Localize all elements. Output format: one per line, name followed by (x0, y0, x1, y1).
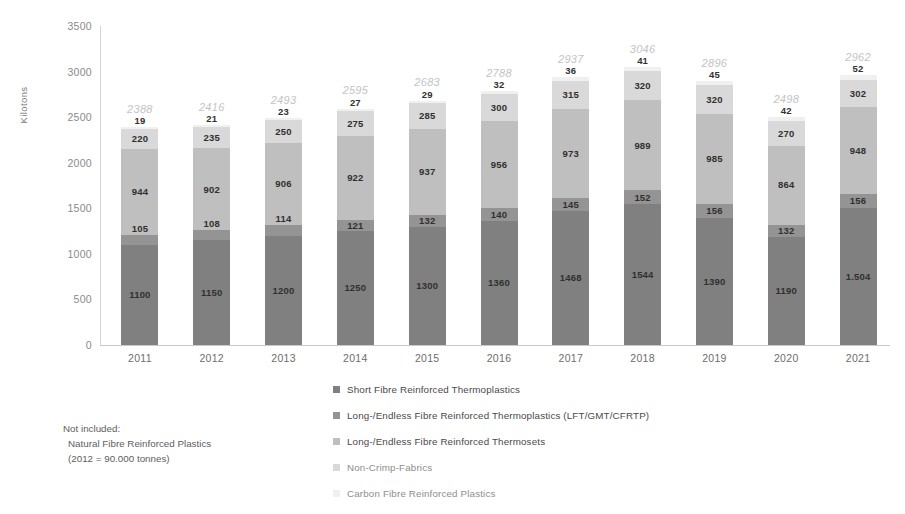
bar-segment[interactable]: 250 (265, 120, 302, 143)
bar-segment[interactable]: 270 (768, 121, 805, 146)
bar-segment[interactable]: 973 (552, 109, 589, 198)
bar-segment[interactable]: 320 (624, 71, 661, 100)
legend-swatch-icon (333, 464, 340, 471)
bar-stack: 422708641321190 (768, 117, 805, 345)
bar-segment[interactable]: 156 (840, 194, 877, 208)
bar-segment[interactable]: 235 (193, 127, 230, 148)
bar-segment[interactable]: 956 (481, 121, 518, 208)
bar-segment-value: 108 (203, 219, 219, 229)
x-tick-2020: 2020 (756, 352, 816, 364)
bar-segment-value: 52 (853, 64, 864, 74)
bar-segment[interactable]: 1360 (481, 221, 518, 345)
legend-item[interactable]: Short Fibre Reinforced Thermoplastics (333, 376, 649, 402)
x-tick-2011: 2011 (110, 352, 170, 364)
legend-item[interactable]: Carbon Fibre Reinforced Plastics (333, 480, 649, 506)
x-axis-line (100, 345, 890, 346)
bar-segment-value: 956 (491, 160, 507, 170)
legend-label: Long-/Endless Fibre Reinforced Thermoset… (347, 436, 545, 447)
bar-segment[interactable]: 315 (552, 81, 589, 110)
bar-segment[interactable]: 985 (696, 114, 733, 204)
bar-stack: 292859371321300 (409, 101, 446, 346)
bar-segment[interactable]: 1468 (552, 211, 589, 345)
x-tick-2014: 2014 (325, 352, 385, 364)
bar-segment[interactable]: 1150 (193, 240, 230, 345)
bar-segment[interactable]: 285 (409, 103, 446, 129)
bar-segment[interactable]: 1100 (121, 245, 158, 345)
y-tick-500: 500 (48, 293, 92, 305)
bar-segment-value: 156 (706, 206, 722, 216)
bar-segment[interactable]: 121 (337, 220, 374, 231)
bar-segment-value: 42 (781, 106, 792, 116)
bar-segment-value: 1390 (703, 277, 725, 287)
not-included-note: Not included: Natural Fibre Reinforced P… (63, 421, 211, 466)
bar-segment-value: 1200 (273, 286, 295, 296)
bar-stack: 323009561401360 (481, 91, 518, 345)
bar-segment[interactable]: 114 (265, 225, 302, 235)
bar-stack: 413209891521544 (624, 67, 661, 345)
bar-segment-value: 937 (419, 167, 435, 177)
bar-stack: 232509061141200 (265, 118, 302, 345)
legend-item[interactable]: Long-/Endless Fibre Reinforced Thermopla… (333, 402, 649, 428)
bar-total-value: 2416 (199, 101, 225, 113)
bar-segment[interactable]: 152 (624, 190, 661, 204)
legend-label: Short Fibre Reinforced Thermoplastics (347, 384, 520, 395)
bar-segment[interactable]: 948 (840, 107, 877, 193)
x-tick-2015: 2015 (397, 352, 457, 364)
bar-total-value: 2683 (414, 76, 440, 88)
bar-segment[interactable]: 140 (481, 208, 518, 221)
bar-segment-value: 36 (565, 66, 576, 76)
bar-segment[interactable]: 132 (768, 225, 805, 237)
bar-segment-value: 27 (350, 98, 361, 108)
bar-segment[interactable]: 156 (696, 204, 733, 218)
legend-swatch-icon (333, 438, 340, 445)
bar-segment[interactable]: 220 (121, 129, 158, 149)
legend-swatch-icon (333, 490, 340, 497)
legend-item[interactable]: Non-Crimp-Fabrics (333, 454, 649, 480)
bar-segment[interactable]: 1200 (265, 236, 302, 345)
bar-segment-value: 302 (850, 89, 866, 99)
y-tick-2000: 2000 (48, 157, 92, 169)
bar-segment[interactable]: 275 (337, 111, 374, 136)
bar-segment-value: 121 (347, 221, 363, 231)
bar-total-value: 2962 (845, 51, 871, 63)
bar-segment[interactable]: 989 (624, 100, 661, 190)
bar-segment[interactable]: 145 (552, 198, 589, 211)
note-line-2: Natural Fibre Reinforced Plastics (63, 436, 211, 451)
bar-segment-value: 220 (132, 134, 148, 144)
legend-item[interactable]: Long-/Endless Fibre Reinforced Thermoset… (333, 428, 649, 454)
bar-segment-value: 132 (778, 226, 794, 236)
x-tick-2018: 2018 (613, 352, 673, 364)
bar-segment[interactable]: 300 (481, 94, 518, 121)
bar-segment[interactable]: 937 (409, 129, 446, 214)
bar-segment-value: 145 (563, 200, 579, 210)
bar-segment[interactable]: 302 (840, 80, 877, 108)
bar-segment-value: 906 (275, 179, 291, 189)
bar-segment-value: 270 (778, 129, 794, 139)
bar-segment-value: 1300 (416, 281, 438, 291)
bar-segment-value: 45 (709, 70, 720, 80)
bar-segment-value: 989 (634, 141, 650, 151)
bar-segment[interactable]: 864 (768, 146, 805, 225)
bar-segment[interactable]: 1.504 (840, 208, 877, 345)
bar-segment[interactable]: 1544 (624, 204, 661, 345)
bar-segment[interactable]: 1190 (768, 237, 805, 345)
bar-segment[interactable]: 922 (337, 136, 374, 220)
x-tick-2016: 2016 (469, 352, 529, 364)
bar-segment[interactable]: 320 (696, 85, 733, 114)
bar-segment[interactable]: 132 (409, 215, 446, 227)
y-tick-3500: 3500 (48, 20, 92, 32)
bar-segment[interactable]: 105 (121, 235, 158, 245)
bar-segment[interactable]: 1250 (337, 231, 374, 345)
x-tick-2021: 2021 (828, 352, 888, 364)
note-line-1: Not included: (63, 421, 211, 436)
bar-segment[interactable]: 1300 (409, 227, 446, 345)
bar-total-value: 2788 (486, 67, 512, 79)
bar-segment-value: 19 (134, 116, 145, 126)
chart-legend: Short Fibre Reinforced ThermoplasticsLon… (333, 376, 649, 506)
bar-segment[interactable]: 108 (193, 230, 230, 240)
y-tick-1500: 1500 (48, 202, 92, 214)
bar-segment[interactable]: 1390 (696, 218, 733, 345)
bar-segment-value: 902 (203, 185, 219, 195)
bar-segment-value: 156 (850, 196, 866, 206)
bar-segment-value: 300 (491, 103, 507, 113)
